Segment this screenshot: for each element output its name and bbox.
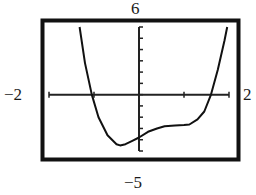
graph-window — [0, 0, 256, 195]
axes — [49, 27, 229, 151]
window-frame — [43, 21, 239, 160]
function-curve — [80, 27, 228, 145]
